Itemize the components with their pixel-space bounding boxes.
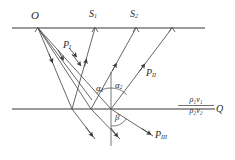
- downgoing-arrow-1: [49, 54, 52, 62]
- label-angle-alpha-2: α2: [115, 81, 122, 90]
- label-angle-beta: β: [115, 113, 119, 122]
- label-path-1: PI: [63, 40, 71, 50]
- alpha-1-subscript: 1: [101, 87, 104, 93]
- seismic-ray-diagram: O S1 S2 PI PII PIII α1 α2 β ρ₁v₁ ρ₂v₂ Q: [0, 0, 235, 160]
- impedance-lower: ρ₂v₂: [178, 107, 214, 115]
- downgoing-ray-group: [38, 28, 111, 109]
- upgoing-arrow-3: [140, 65, 145, 72]
- label-path-3: PIII: [155, 130, 167, 140]
- receiver-2-subscript: 2: [135, 13, 138, 19]
- path-2-subscript: II: [152, 72, 156, 78]
- downgoing-arrow-group: [49, 48, 81, 65]
- impedance-ratio-label: ρ₁v₁ ρ₂v₂: [178, 96, 214, 116]
- alpha-2-subscript: 2: [120, 84, 123, 90]
- label-interface-Q: Q: [216, 104, 223, 114]
- upgoing-arrow-group: [85, 60, 145, 71]
- refracted-arrow-group: [86, 128, 151, 137]
- upgoing-ray-group: [72, 28, 172, 109]
- refracted-arrow-3: [142, 129, 151, 135]
- impedance-upper: ρ₁v₁: [178, 96, 214, 104]
- path-1-subscript: I: [69, 44, 71, 50]
- label-path-2: PII: [146, 68, 156, 78]
- label-receiver-S2: S2: [130, 9, 138, 19]
- refracted-arrow-1: [86, 128, 93, 137]
- label-angle-alpha-1: α1: [96, 84, 103, 93]
- label-receiver-S1: S1: [89, 9, 97, 19]
- path-3-subscript: III: [161, 134, 167, 140]
- refracted-arrow-2: [111, 128, 118, 137]
- receiver-1-subscript: 1: [94, 13, 97, 19]
- label-source-O: O: [31, 10, 39, 21]
- refracted-ray-group: [72, 109, 153, 139]
- downgoing-arrow-4: [72, 54, 81, 65]
- upgoing-arrow-2: [113, 64, 117, 71]
- downgoing-ray-3: [38, 28, 111, 109]
